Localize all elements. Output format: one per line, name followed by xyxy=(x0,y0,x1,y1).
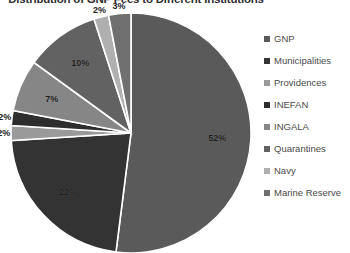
legend-color-swatch-icon xyxy=(264,190,270,196)
pie-data-label: 10% xyxy=(71,58,89,68)
legend-color-swatch-icon xyxy=(264,124,270,130)
legend-color-swatch-icon xyxy=(264,168,270,174)
pie-data-label: 22% xyxy=(59,187,77,197)
legend-color-swatch-icon xyxy=(264,36,270,42)
legend-item-label: Providences xyxy=(274,78,326,88)
chart-legend: GNPMunicipalitiesProvidencesINEFANINGALA… xyxy=(264,28,350,204)
pie-data-label: 7% xyxy=(45,94,58,104)
pie-chart-figure: Distribution of GNP Fees to Different In… xyxy=(0,0,350,253)
legend-item[interactable]: GNP xyxy=(264,28,350,50)
legend-item-label: Navy xyxy=(274,166,296,176)
legend-item[interactable]: Navy xyxy=(264,160,350,182)
legend-item-label: Marine Reserve xyxy=(274,188,341,198)
legend-color-swatch-icon xyxy=(264,146,270,152)
legend-item[interactable]: Marine Reserve xyxy=(264,182,350,204)
legend-item[interactable]: Providences xyxy=(264,72,350,94)
legend-item-label: INEFAN xyxy=(274,100,308,110)
pie-data-label: 2% xyxy=(0,112,11,122)
legend-color-swatch-icon xyxy=(264,58,270,64)
pie-slice[interactable] xyxy=(116,13,251,253)
legend-item[interactable]: Quarantines xyxy=(264,138,350,160)
legend-item-label: INGALA xyxy=(274,122,309,132)
pie-data-label: 52% xyxy=(208,133,226,143)
legend-item-label: Municipalities xyxy=(274,56,331,66)
pie-svg xyxy=(0,0,264,253)
legend-item-label: GNP xyxy=(274,34,295,44)
legend-item[interactable]: INGALA xyxy=(264,116,350,138)
legend-color-swatch-icon xyxy=(264,80,270,86)
pie-plot-area: 52%22%2%2%7%10%2%3% xyxy=(0,0,264,253)
pie-data-label: 3% xyxy=(112,1,125,11)
legend-item[interactable]: INEFAN xyxy=(264,94,350,116)
legend-color-swatch-icon xyxy=(264,102,270,108)
legend-item-label: Quarantines xyxy=(274,144,326,154)
pie-data-label: 2% xyxy=(0,128,10,138)
legend-item[interactable]: Municipalities xyxy=(264,50,350,72)
pie-data-label: 2% xyxy=(93,5,106,15)
